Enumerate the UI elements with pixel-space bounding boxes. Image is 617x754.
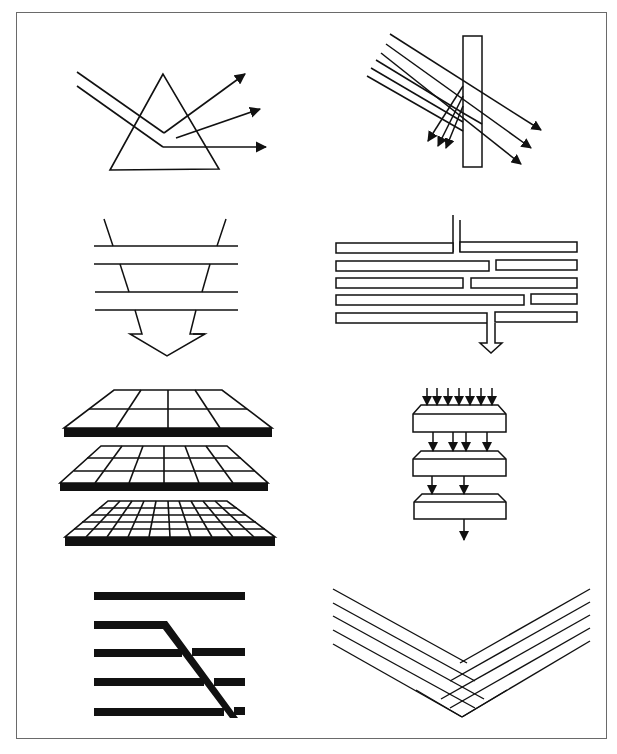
prism-dispersion-panel [77,72,266,170]
incoming-ray-upper [77,72,164,133]
bar-r1-b [460,242,577,252]
grid-slab-coarse [64,390,272,437]
bar-r1-a [336,243,453,253]
cascade-boxes-panel [413,388,506,540]
band-1 [94,592,245,600]
band-3-right [192,648,245,656]
bar-r5-b [495,312,577,322]
grid-slab-fine [65,501,275,546]
band-4-right [214,678,245,686]
bar-r3-a [336,278,463,288]
band-5-left [94,708,224,716]
grid-slab-medium [60,446,268,491]
bar-r3-b [471,278,577,288]
prism-triangle [110,74,219,170]
band-5-right [234,707,245,715]
incoming-ray-lower [77,86,163,147]
band-2-with-diagonal [94,621,238,718]
funnel-right-edge-2 [202,264,210,292]
layered-grids-panel [60,390,275,546]
input-arrows [427,388,492,405]
bar-r4-a [336,295,524,305]
output-arrow-1 [164,74,245,133]
v-crosshatch-panel [333,589,590,717]
bar-r4-b [531,294,577,304]
cascade-box-1 [413,405,506,432]
bar-r2-b [496,260,577,270]
funnel-left-edge-2 [120,264,129,292]
through-ray-2 [386,44,531,148]
bar-r2-a [336,261,489,271]
outlet-arrow [480,323,502,353]
cascade-box-3 [414,494,506,519]
incident-ray-5 [371,68,463,122]
plate-beam-splitter-panel [367,34,541,167]
stacked-bars-channel-panel [336,215,577,353]
band-4-left [94,678,204,686]
diagram-canvas [0,0,617,754]
through-ray-3 [381,53,521,164]
funnel-layers-panel [94,219,238,356]
funnel-right-edge [217,219,226,246]
band-3-left [94,649,182,657]
stage-2-arrows [433,432,487,451]
funnel-left-edge [104,219,113,246]
funnel-right-edge-3 [190,310,205,334]
fault-offset-panel [94,592,245,718]
stage-3-arrows [432,476,464,494]
bar-r5-a [336,313,487,323]
cascade-box-2 [413,451,506,476]
output-arrow-2 [176,109,260,138]
